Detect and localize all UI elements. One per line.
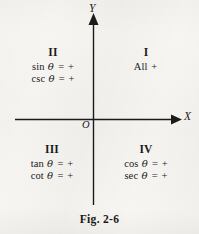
quadrant-1-block: I All + bbox=[106, 47, 186, 72]
quadrant-4-numeral: IV bbox=[104, 144, 188, 156]
theta-symbol: θ bbox=[47, 61, 54, 72]
theta-symbol: θ bbox=[48, 73, 55, 84]
quadrant-2-func-2: csc bbox=[31, 73, 45, 84]
y-axis-arrowhead bbox=[89, 13, 99, 25]
quadrant-2-line-1: sin θ = + bbox=[14, 62, 92, 73]
equals-sign: = bbox=[57, 61, 65, 72]
quadrant-1-numeral: I bbox=[106, 47, 186, 59]
sign-value: + bbox=[162, 170, 168, 181]
quadrant-3-line-2: cot θ = + bbox=[12, 171, 92, 182]
sign-value: + bbox=[67, 170, 73, 181]
equals-sign: = bbox=[56, 158, 64, 169]
quadrant-1-func-1: All bbox=[134, 61, 148, 72]
figure-caption: Fig. 2-6 bbox=[0, 213, 199, 225]
sign-value: + bbox=[150, 61, 158, 72]
theta-symbol: θ bbox=[47, 170, 54, 181]
figure-container: Y X O II sin θ = + csc θ = + I All + III… bbox=[0, 0, 199, 234]
sign-value: + bbox=[162, 158, 168, 169]
quadrant-4-func-1: cos bbox=[124, 158, 138, 169]
quadrant-2-func-1: sin bbox=[32, 61, 45, 72]
equals-sign: = bbox=[58, 73, 66, 84]
sign-value: + bbox=[69, 73, 75, 84]
coordinate-axes bbox=[0, 0, 199, 234]
sign-value: + bbox=[67, 158, 73, 169]
quadrant-3-line-1: tan θ = + bbox=[12, 159, 92, 170]
quadrant-4-block: IV cos θ = + sec θ = + bbox=[104, 144, 188, 183]
quadrant-4-func-2: sec bbox=[124, 170, 138, 181]
x-axis-arrowhead bbox=[171, 115, 182, 125]
quadrant-1-line-1: All + bbox=[106, 62, 186, 73]
theta-symbol: θ bbox=[47, 158, 54, 169]
sign-value: + bbox=[68, 61, 74, 72]
quadrant-2-block: II sin θ = + csc θ = + bbox=[14, 47, 92, 86]
quadrant-4-line-1: cos θ = + bbox=[104, 159, 188, 170]
quadrant-3-func-2: cot bbox=[31, 170, 44, 181]
quadrant-3-numeral: III bbox=[12, 144, 92, 156]
quadrant-2-numeral: II bbox=[14, 47, 92, 59]
equals-sign: = bbox=[151, 158, 159, 169]
theta-symbol: θ bbox=[141, 170, 148, 181]
theta-symbol: θ bbox=[141, 158, 148, 169]
quadrant-3-func-1: tan bbox=[31, 158, 44, 169]
origin-label: O bbox=[82, 119, 90, 130]
x-axis-label: X bbox=[184, 110, 191, 122]
quadrant-2-line-2: csc θ = + bbox=[14, 74, 92, 85]
y-axis-label: Y bbox=[89, 2, 95, 14]
quadrant-4-line-2: sec θ = + bbox=[104, 171, 188, 182]
quadrant-3-block: III tan θ = + cot θ = + bbox=[12, 144, 92, 183]
equals-sign: = bbox=[56, 170, 64, 181]
equals-sign: = bbox=[151, 170, 159, 181]
